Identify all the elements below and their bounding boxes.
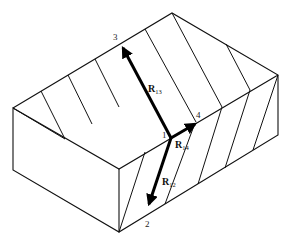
top-face-hatching	[41, 13, 250, 139]
vector-r12	[149, 138, 171, 204]
point-label-2: 2	[145, 220, 150, 229]
vector-label-r12: R12	[162, 177, 176, 189]
point-label-3: 3	[113, 33, 118, 42]
vectors	[123, 48, 195, 204]
point-label-4: 4	[196, 111, 201, 120]
vector-label-r13: R13	[148, 84, 162, 96]
vector-r13	[123, 48, 171, 138]
point-label-1: 1	[162, 131, 167, 140]
block-diagram	[0, 0, 290, 241]
right-face-hatching	[119, 75, 278, 232]
block-outline	[13, 13, 278, 232]
vector-label-r14: R14	[175, 140, 189, 152]
vector-r14	[171, 124, 195, 138]
